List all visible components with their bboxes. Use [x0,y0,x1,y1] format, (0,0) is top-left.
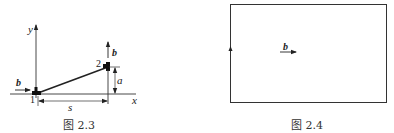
node-2-label: 2 [96,58,101,69]
b-label-node-2: b [112,47,117,58]
b-label-node-1: b [16,77,21,88]
x-axis-label: x [131,94,137,106]
node-1-stem [35,87,38,92]
caption-fig-2-3: 图 2.3 [63,119,95,132]
loop-direction-arrow-icon [229,46,233,51]
figure-2-3: y x 1 2 b b a s 图 2.3 [10,23,137,132]
dim-a-label: a [117,74,123,86]
node-2-stem [106,62,110,71]
loop-rectangle [231,5,387,103]
b-label-interior: b [283,41,288,52]
member-line [38,67,108,93]
node-1-label: 1 [30,94,35,105]
caption-fig-2-4: 图 2.4 [291,119,323,132]
y-axis-label: y [27,23,33,35]
figure-2-4: b 图 2.4 [229,5,387,133]
dim-s-label: s [68,101,72,113]
